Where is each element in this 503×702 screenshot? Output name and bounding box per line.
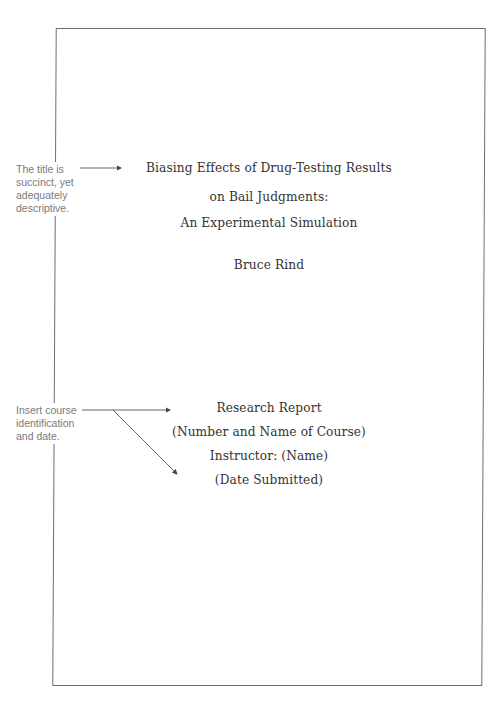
annotation-arrows [0,0,503,702]
arrow-to-date-icon [113,410,177,474]
